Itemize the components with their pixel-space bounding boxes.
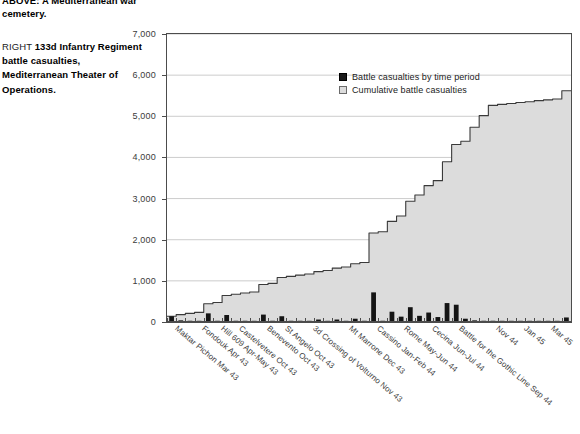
y-axis: 7,0006,0005,0004,0003,0002,0001,0000 <box>110 33 162 323</box>
legend-swatch-dark-icon <box>339 73 347 81</box>
x-tick-mark <box>213 318 214 323</box>
x-tick-mark <box>240 318 241 323</box>
y-tick-label: 1,000 <box>132 276 156 286</box>
x-tick-mark <box>571 318 572 323</box>
bar <box>454 305 459 322</box>
x-tick-mark <box>387 318 388 323</box>
x-tick-mark <box>479 318 480 323</box>
chart-plot-frame: Battle casualties by time periodCumulati… <box>166 33 572 323</box>
x-tick-mark <box>498 318 499 323</box>
x-tick-mark <box>534 318 535 323</box>
x-tick-mark <box>507 318 508 323</box>
bar <box>408 307 413 322</box>
y-tick-label: 5,000 <box>132 111 156 121</box>
bar <box>206 313 211 322</box>
x-tick-mark <box>204 318 205 323</box>
chart-legend: Battle casualties by time periodCumulati… <box>339 71 539 97</box>
x-tick-mark <box>296 318 297 323</box>
bar <box>426 313 431 322</box>
x-tick-label: Jan 45 <box>522 324 547 347</box>
bar <box>371 292 376 322</box>
x-tick-mark <box>415 318 416 323</box>
x-tick-mark <box>452 318 453 323</box>
x-tick-mark <box>277 318 278 323</box>
y-tick-label: 4,000 <box>132 152 156 162</box>
x-tick-label: Nov 44 <box>494 324 520 348</box>
cumulative-area <box>167 91 571 322</box>
y-tick-label: 0 <box>151 317 156 327</box>
x-tick-mark <box>351 318 352 323</box>
x-tick-mark <box>360 318 361 323</box>
x-tick-mark <box>525 318 526 323</box>
caption-right-lead: RIGHT <box>2 41 32 52</box>
y-tick-label: 3,000 <box>132 194 156 204</box>
x-axis: Maktar Pichon Mar 43Fondouk Apr 43Hill 6… <box>166 324 576 434</box>
x-tick-mark <box>250 318 251 323</box>
legend-label: Battle casualties by time period <box>352 72 480 82</box>
x-tick-mark <box>176 318 177 323</box>
x-tick-mark <box>470 318 471 323</box>
x-tick-mark <box>231 318 232 323</box>
x-tick-mark <box>341 318 342 323</box>
x-tick-mark <box>516 318 517 323</box>
x-tick-mark <box>268 318 269 323</box>
bar <box>261 315 266 322</box>
caption-above: ABOVE: A Mediterranean war cemetery. <box>2 0 148 20</box>
x-tick-mark <box>259 318 260 323</box>
x-tick-mark <box>488 318 489 323</box>
legend-item-1: Battle casualties by time period <box>339 71 539 83</box>
legend-swatch-light-icon <box>339 86 347 94</box>
x-tick-mark <box>167 318 168 323</box>
x-tick-mark <box>222 318 223 323</box>
x-tick-mark <box>332 318 333 323</box>
bar <box>445 303 450 322</box>
x-tick-mark <box>424 318 425 323</box>
x-tick-mark <box>314 318 315 323</box>
x-tick-mark <box>543 318 544 323</box>
legend-item-2: Cumulative battle casualties <box>339 84 539 96</box>
x-tick-label: Mar 45 <box>549 324 574 347</box>
bar <box>390 312 395 322</box>
x-tick-mark <box>369 318 370 323</box>
x-tick-mark <box>433 318 434 323</box>
x-tick-mark <box>323 318 324 323</box>
y-tick-label: 2,000 <box>132 235 156 245</box>
x-tick-mark <box>553 318 554 323</box>
caption-above-lead: ABOVE: <box>2 0 40 6</box>
x-tick-mark <box>185 318 186 323</box>
x-tick-mark <box>406 318 407 323</box>
x-tick-mark <box>305 318 306 323</box>
x-tick-mark <box>562 318 563 323</box>
legend-label: Cumulative battle casualties <box>352 85 467 95</box>
x-tick-mark <box>195 318 196 323</box>
x-tick-mark <box>286 318 287 323</box>
x-tick-mark <box>461 318 462 323</box>
y-tick-label: 7,000 <box>132 29 156 39</box>
bar <box>224 315 229 322</box>
x-tick-mark <box>378 318 379 323</box>
x-tick-mark <box>397 318 398 323</box>
x-tick-mark <box>442 318 443 323</box>
y-tick-label: 6,000 <box>132 70 156 80</box>
